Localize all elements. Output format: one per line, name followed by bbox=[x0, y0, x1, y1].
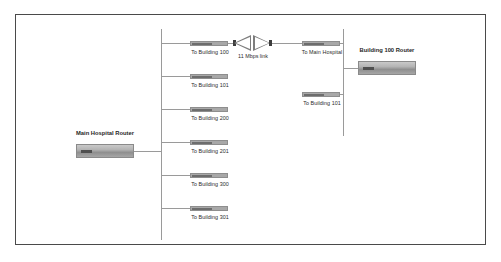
switch-icon bbox=[302, 41, 340, 46]
antenna-icon-inner bbox=[236, 37, 250, 49]
switch-label: To Building 300 bbox=[184, 181, 236, 187]
switch-icon-ports bbox=[192, 142, 212, 144]
main-branch-wire bbox=[161, 208, 190, 209]
main-branch-wire bbox=[161, 43, 190, 44]
building-100-trunk-line bbox=[343, 29, 344, 136]
router-icon-mark bbox=[81, 150, 92, 153]
switch-label: To Building 101 bbox=[296, 100, 348, 106]
switch-label: To Building 200 bbox=[184, 115, 236, 121]
switch-icon-ports bbox=[192, 208, 212, 210]
switch-label: To Building 201 bbox=[184, 148, 236, 154]
router-icon bbox=[358, 61, 416, 75]
switch-icon bbox=[190, 206, 228, 211]
antenna-icon bbox=[234, 35, 251, 51]
switch-icon bbox=[190, 107, 228, 112]
switch-icon-ports bbox=[304, 94, 324, 96]
antenna-icon-inner bbox=[255, 37, 269, 49]
main-branch-wire bbox=[161, 76, 190, 77]
wireless-link-label: 11 Mbps link bbox=[214, 53, 292, 59]
switch-icon-ports bbox=[192, 175, 212, 177]
main-branch-wire bbox=[161, 109, 190, 110]
main-branch-wire bbox=[161, 142, 190, 143]
switch-label: To Building 101 bbox=[184, 82, 236, 88]
switch-label: To Building 301 bbox=[184, 214, 236, 220]
building-100-router-trunk-wire bbox=[343, 68, 358, 69]
router-icon bbox=[76, 144, 134, 158]
switch-icon bbox=[190, 41, 228, 46]
switch-icon bbox=[302, 92, 340, 97]
building-100-router-label: Building 100 Router bbox=[347, 47, 427, 53]
router-icon-mark bbox=[363, 67, 374, 70]
main-branch-wire bbox=[161, 175, 190, 176]
switch-icon-ports bbox=[192, 43, 212, 45]
diagram-border-frame: Main Hospital Router To Building 100 To … bbox=[15, 14, 486, 245]
diagram-canvas: Main Hospital Router To Building 100 To … bbox=[0, 0, 501, 262]
wireless-link[interactable]: 11 Mbps link bbox=[228, 35, 302, 51]
switch-icon-ports bbox=[192, 76, 212, 78]
switch-icon bbox=[190, 173, 228, 178]
switch-icon bbox=[190, 74, 228, 79]
switch-icon-ports bbox=[304, 43, 324, 45]
switch-icon bbox=[190, 140, 228, 145]
antenna-icon bbox=[253, 35, 270, 51]
main-hospital-router-label: Main Hospital Router bbox=[65, 130, 145, 136]
switch-label: To Main Hospital bbox=[296, 49, 348, 55]
switch-icon-ports bbox=[192, 109, 212, 111]
main-router-trunk-wire bbox=[134, 151, 161, 152]
wireless-right-wire bbox=[272, 43, 302, 44]
